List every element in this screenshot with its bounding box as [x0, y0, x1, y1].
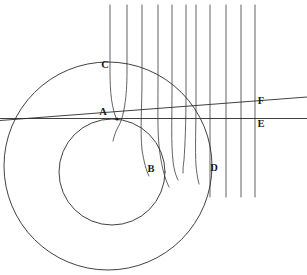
- point-label-b: B: [147, 163, 154, 174]
- point-label-e: E: [257, 118, 264, 129]
- ray-bundle: [110, 5, 255, 197]
- optics-diagram: A B C D E F: [0, 0, 307, 275]
- point-label-a: A: [99, 106, 107, 117]
- ray-1: [110, 5, 116, 118]
- point-label-f: F: [258, 95, 264, 106]
- ray-5: [172, 5, 178, 180]
- point-label-c: C: [101, 59, 109, 70]
- ray-3: [141, 5, 149, 176]
- point-a-marker: [116, 118, 119, 121]
- ray-7: [196, 5, 199, 184]
- outer-circle: [4, 62, 212, 270]
- point-label-d: D: [210, 162, 218, 173]
- ray-6: [183, 5, 186, 173]
